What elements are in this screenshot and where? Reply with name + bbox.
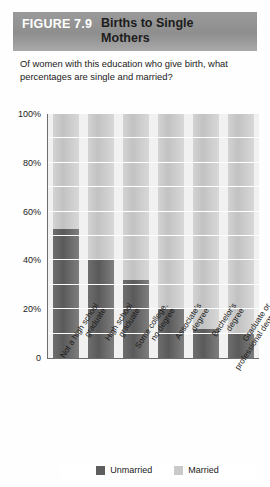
y-axis-tick-label: 0 [36, 353, 41, 363]
y-axis-tick-label: 100% [18, 109, 41, 119]
legend-label-married: Married [188, 465, 219, 475]
legend-swatch-unmarried-icon [96, 466, 105, 475]
figure-header-banner: FIGURE 7.9 Births to Single Mothers [13, 12, 257, 51]
gridline [48, 186, 259, 187]
legend-item-unmarried: Unmarried [96, 465, 152, 475]
y-axis-tick-label: 60% [23, 207, 41, 217]
gridline [48, 211, 259, 212]
chart-legend: Unmarried Married [60, 462, 255, 478]
gridline [48, 137, 259, 138]
legend-item-married: Married [174, 465, 219, 475]
legend-label-unmarried: Unmarried [110, 465, 152, 475]
gridline [48, 162, 259, 163]
y-axis-tick-label: 20% [23, 304, 41, 314]
y-axis-labels: 020%40%60%80%100% [14, 108, 44, 358]
figure-title: Births to Single Mothers [101, 16, 221, 46]
figure-container: FIGURE 7.9 Births to Single Mothers Of w… [0, 0, 270, 487]
gridline [48, 284, 259, 285]
figure-number: FIGURE 7.9 [22, 16, 92, 31]
chart-subtitle: Of women with this education who give bi… [20, 58, 252, 83]
gridline [48, 259, 259, 260]
bar-slot [53, 114, 79, 358]
y-axis-tick-label: 80% [23, 158, 41, 168]
y-axis-tick-label: 40% [23, 255, 41, 265]
x-axis-labels: Not a high schoolgraduateHigh schoolgrad… [47, 372, 262, 464]
legend-swatch-married-icon [174, 466, 183, 475]
gridline [48, 235, 259, 236]
